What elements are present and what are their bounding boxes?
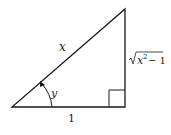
- angle-label: y: [50, 87, 58, 100]
- right-angle-marker: [109, 90, 125, 107]
- opposite-label: x 2 − 1: [129, 52, 166, 67]
- right-triangle-diagram: x y 1 x 2 − 1: [0, 0, 171, 135]
- radicand-exponent: 2: [143, 53, 147, 61]
- hypotenuse-label: x: [59, 40, 66, 54]
- triangle: [12, 9, 125, 107]
- radicand-rest: − 1: [148, 55, 166, 66]
- adjacent-label: 1: [68, 112, 75, 125]
